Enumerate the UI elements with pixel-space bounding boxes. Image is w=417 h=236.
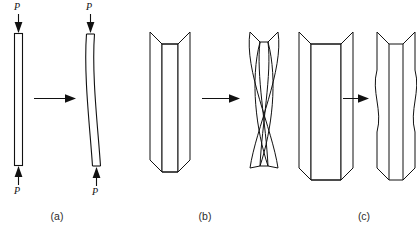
transition-arrow-c-head (358, 94, 369, 102)
isection-web (162, 44, 178, 172)
buckled-column-right-edge (94, 34, 101, 166)
straight-column (15, 34, 23, 166)
buckled-channel-bottom-edge-left (377, 168, 389, 180)
bottom-load-arrow-head (15, 166, 23, 177)
caption-panel-a: (a) (27, 211, 87, 222)
buckled-top-load-arrow-head (87, 22, 95, 33)
twisted-flange-a-outer (249, 32, 278, 168)
panel-c-graphics (285, 0, 417, 200)
caption-panel-b: (b) (175, 211, 235, 222)
load-label-bottom-buckled: P (92, 187, 98, 197)
load-label-bottom-straight: P (14, 186, 20, 196)
twisted-bottom-cap-right (268, 166, 278, 168)
load-label-top-buckled: P (86, 2, 92, 12)
buckled-channel-top-edge-right (403, 32, 415, 44)
twisted-flange-b-outer (250, 32, 279, 168)
transition-arrow-b-head (229, 94, 240, 102)
buckled-bottom-load-arrow-head (93, 167, 101, 178)
buckled-channel-left-outer-edge (375, 32, 378, 168)
channel-web (311, 44, 341, 180)
buckled-column-left-edge (86, 34, 93, 166)
twisted-top-cap-right (268, 32, 278, 42)
panel-a-graphics (0, 0, 140, 200)
buckled-channel-right-outer-edge (413, 32, 416, 168)
isection-right-flange (178, 32, 190, 172)
caption-panel-c: (c) (334, 211, 394, 222)
buckled-channel-bottom-edge-right (403, 168, 415, 180)
twisted-bottom-cap-left (250, 166, 260, 168)
buckling-modes-figure: P P P P (0, 0, 417, 236)
load-label-top-straight: P (14, 2, 20, 12)
isection-left-flange (150, 32, 162, 172)
channel-right-flange (341, 32, 353, 180)
top-load-arrow-head (15, 22, 23, 33)
transition-arrow-a-head (65, 94, 76, 102)
channel-left-flange (299, 32, 311, 180)
panel-b-graphics (140, 0, 285, 200)
buckled-channel-top-edge-left (377, 32, 389, 44)
twisted-top-cap-left (250, 32, 260, 42)
